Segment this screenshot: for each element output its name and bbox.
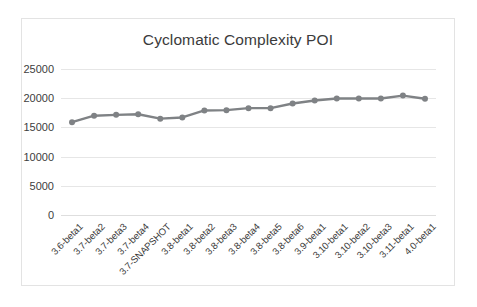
plot-area: 2500020000150001000050000 xyxy=(61,69,436,215)
data-point-marker xyxy=(135,111,141,117)
data-point-marker xyxy=(268,105,274,111)
data-point-marker xyxy=(201,107,207,113)
data-point-marker xyxy=(290,100,296,106)
data-point-marker xyxy=(356,95,362,101)
y-axis-tick-label: 20000 xyxy=(23,92,54,104)
y-axis-tick-label: 25000 xyxy=(23,63,54,75)
data-point-marker xyxy=(223,107,229,113)
y-axis-tick-label: 15000 xyxy=(23,121,54,133)
data-point-marker xyxy=(69,119,75,125)
y-axis-tick-label: 5000 xyxy=(30,180,54,192)
data-point-marker xyxy=(157,116,163,122)
data-point-marker xyxy=(246,105,252,111)
line-series xyxy=(61,69,436,215)
gridline xyxy=(61,215,436,216)
data-point-marker xyxy=(400,93,406,99)
y-axis-tick-label: 0 xyxy=(48,209,54,221)
data-point-marker xyxy=(334,95,340,101)
x-axis-tick-labels: 3.6-beta13.7-beta23.7-beta33.7-beta43.7-… xyxy=(61,217,436,287)
y-axis-tick-label: 10000 xyxy=(23,151,54,163)
chart-frame: Cyclomatic Complexity POI 25000200001500… xyxy=(21,18,455,286)
data-point-marker xyxy=(91,113,97,119)
data-point-marker xyxy=(179,114,185,120)
data-point-marker xyxy=(312,98,318,104)
data-point-marker xyxy=(113,112,119,118)
chart-title: Cyclomatic Complexity POI xyxy=(22,31,454,49)
data-point-marker xyxy=(422,96,428,102)
data-point-marker xyxy=(378,95,384,101)
